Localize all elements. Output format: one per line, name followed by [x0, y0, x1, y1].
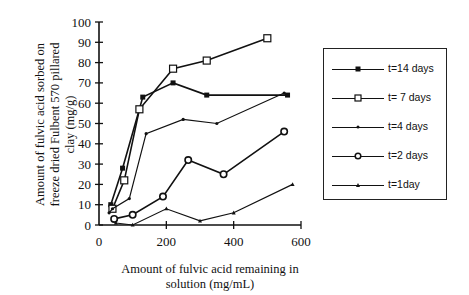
open-square-marker-icon [203, 57, 210, 64]
series-line [114, 132, 284, 219]
open-circle-marker-icon [111, 216, 117, 222]
y-axis-label: Amount of fulvic acid sorbed on freeze d… [0, 22, 110, 222]
open-square-marker-icon [264, 35, 271, 42]
filled-square-marker-icon [171, 80, 176, 85]
open-square-marker-icon [121, 177, 128, 184]
x-tick-label: 0 [96, 234, 103, 249]
open-square-marker-icon [354, 94, 362, 102]
open-circle-marker-icon [185, 157, 191, 163]
filled-square-marker-icon [354, 65, 362, 73]
legend: t=14 days t= 7 days t=4 days t=2 days t=… [323, 48, 447, 200]
x-axis-label: Amount of fulvic acid remaining in solut… [110, 262, 310, 292]
x-tick-label: 400 [224, 234, 244, 249]
triangle-marker-icon [164, 207, 168, 211]
dot-marker-icon [215, 122, 218, 125]
series-line [111, 83, 288, 205]
y-axis-label-line-1: Amount of fulvic acid sorbed on [33, 25, 48, 225]
legend-label: t=1day [388, 178, 420, 190]
legend-label: t=14 days [388, 62, 434, 74]
open-circle-marker-icon [129, 212, 135, 218]
legend-item-t7: t= 7 days [332, 92, 444, 104]
open-circle-marker-icon [160, 193, 166, 199]
x-tick-label: 600 [291, 234, 311, 249]
triangle-marker-icon [291, 182, 295, 186]
dot-marker-icon [145, 132, 148, 135]
y-axis-label-line-2: freeze dried Fulbent 570 pillared [48, 25, 63, 225]
open-circle-marker-icon [281, 128, 287, 134]
dot-marker-icon [283, 91, 286, 94]
open-square-marker-icon [136, 106, 143, 113]
legend-label: t= 7 days [388, 91, 431, 103]
legend-item-t2: t=2 days [332, 150, 444, 162]
x-axis-label-line-2: solution (mg/mL) [110, 277, 310, 292]
y-axis-label-line-3: clay (mg/g) [63, 25, 78, 225]
dot-marker-icon [111, 207, 114, 210]
series-line [116, 184, 293, 225]
filled-square-marker-icon [204, 93, 209, 98]
x-tick-label: 200 [157, 234, 177, 249]
triangle-marker-icon [354, 181, 362, 189]
legend-label: t=4 days [388, 120, 428, 132]
dot-marker-icon [128, 197, 131, 200]
legend-item-t14: t=14 days [332, 63, 444, 75]
filled-square-marker-icon [140, 95, 145, 100]
open-circle-marker-icon [220, 171, 226, 177]
series-line [113, 38, 268, 209]
dot-marker-icon [354, 123, 362, 131]
dot-marker-icon [182, 118, 185, 121]
x-axis-label-line-1: Amount of fulvic acid remaining in [110, 262, 310, 277]
legend-item-t4: t=4 days [332, 121, 444, 133]
filled-square-marker-icon [285, 93, 290, 98]
legend-item-t1: t=1day [332, 179, 444, 191]
open-square-marker-icon [170, 65, 177, 72]
open-circle-marker-icon [354, 152, 362, 160]
filled-square-marker-icon [120, 166, 125, 171]
legend-label: t=2 days [388, 149, 428, 161]
